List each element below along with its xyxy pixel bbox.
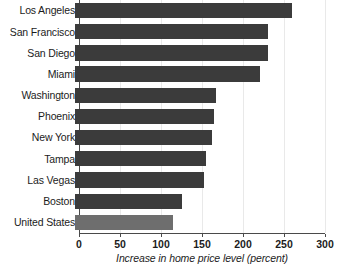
bar-row: Las Vegas: [0, 169, 339, 190]
tick-label: 50: [114, 238, 126, 250]
bar-cell: [75, 169, 339, 190]
category-label: New York: [0, 132, 75, 143]
bar: [75, 194, 182, 209]
bar-row: Boston: [0, 191, 339, 212]
bar-row: San Diego: [0, 42, 339, 63]
category-label: Miami: [0, 69, 75, 80]
tick-mark: [243, 234, 244, 237]
bar-cell: [75, 191, 339, 212]
bar-cell: [75, 85, 339, 106]
tick-mark: [325, 234, 326, 237]
x-axis-title: Increase in home price level (percent): [79, 252, 325, 264]
category-label: Washington: [0, 90, 75, 101]
bar: [75, 66, 260, 81]
bar-row: San Francisco: [0, 21, 339, 42]
tick-label: 300: [316, 238, 334, 250]
bar-row: Phoenix: [0, 106, 339, 127]
tick-label: 200: [234, 238, 252, 250]
bar-cell: [75, 212, 339, 233]
bar: [75, 130, 212, 145]
bar-cell: [75, 64, 339, 85]
tick-label: 150: [193, 238, 211, 250]
tick-label: 100: [152, 238, 170, 250]
bar-row: Tampa: [0, 148, 339, 169]
bar-cell: [75, 148, 339, 169]
tick-mark: [79, 234, 80, 237]
tick-mark: [202, 234, 203, 237]
bar-cell: [75, 42, 339, 63]
category-label: Los Angeles: [0, 5, 75, 16]
bar-cell: [75, 0, 339, 21]
bar: [75, 151, 206, 166]
bar: [75, 24, 268, 39]
bar: [75, 45, 268, 60]
tick-mark: [120, 234, 121, 237]
bar-row: Miami: [0, 64, 339, 85]
bar-rows: Los AngelesSan FranciscoSan DiegoMiamiWa…: [0, 0, 339, 233]
tick-mark: [161, 234, 162, 237]
category-label: Las Vegas: [0, 175, 75, 186]
category-label: Boston: [0, 196, 75, 207]
x-axis-ticks: 050100150200250300: [0, 234, 339, 250]
category-label: United States: [0, 217, 75, 228]
bar-cell: [75, 21, 339, 42]
bar-cell: [75, 106, 339, 127]
bar: [75, 172, 204, 187]
bar-row: New York: [0, 127, 339, 148]
category-label: Phoenix: [0, 111, 75, 122]
bar: [75, 88, 216, 103]
bar: [75, 109, 214, 124]
category-label: San Francisco: [0, 27, 75, 38]
bar: [75, 3, 292, 18]
bar: [75, 215, 173, 230]
tick-label: 250: [275, 238, 293, 250]
category-label: Tampa: [0, 154, 75, 165]
bar-row: United States: [0, 212, 339, 233]
bar-row: Los Angeles: [0, 0, 339, 21]
bar-chart: Los AngelesSan FranciscoSan DiegoMiamiWa…: [0, 0, 339, 270]
bar-cell: [75, 127, 339, 148]
tick-mark: [284, 234, 285, 237]
tick-label: 0: [76, 238, 82, 250]
bar-row: Washington: [0, 85, 339, 106]
category-label: San Diego: [0, 48, 75, 59]
